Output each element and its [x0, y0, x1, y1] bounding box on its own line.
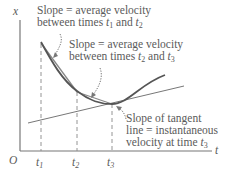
position-time-diagram: x t O t1 t2 t3 Slope = average velocity … [0, 0, 230, 176]
leader-chord2 [93, 68, 101, 95]
tick-t1: t1 [36, 156, 43, 172]
chord1-annotation-line1: Slope = average velocity [37, 4, 151, 16]
tick-t3: t3 [107, 156, 114, 172]
leader-chord1 [55, 34, 61, 56]
chord2-annotation-line1: Slope = average velocity [69, 38, 183, 50]
tick-t2: t2 [72, 156, 79, 172]
origin-label: O [9, 154, 17, 166]
chord2-annotation-line2: between times t2 and t3 [69, 50, 175, 66]
arrowhead-chord1 [53, 52, 58, 58]
arrowhead-tangent [116, 106, 122, 111]
x-axis-label: t [215, 144, 218, 156]
tangent-annotation-line3: velocity at time t3 [126, 136, 208, 152]
tangent-annotation-line2: line = instantaneous [126, 124, 218, 136]
tangent-annotation-line1: Slope of tangent [126, 112, 201, 124]
y-axis-label: x [13, 5, 18, 17]
chord1-annotation-line2: between times t1 and t2 [37, 16, 143, 32]
leader-tangent [119, 108, 126, 119]
